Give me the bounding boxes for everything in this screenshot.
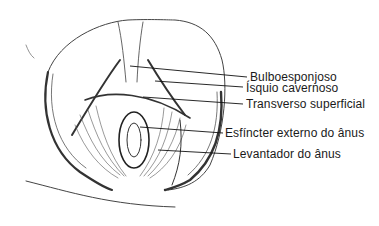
right-thigh-band-inner xyxy=(188,92,217,175)
external-anal-sphincter xyxy=(119,112,149,168)
leader-bulboesponjoso xyxy=(130,66,247,77)
left-thigh-band xyxy=(45,72,112,190)
label-levantador: Levantador do ânus xyxy=(233,147,341,161)
perineum-illustration xyxy=(26,20,225,207)
label-isquio-cavernoso: Ísquio cavernoso xyxy=(246,81,338,95)
leader-levantador xyxy=(158,150,231,154)
anal-canal xyxy=(127,123,141,157)
right-thigh-band xyxy=(165,92,222,190)
leader-lines xyxy=(130,66,247,154)
leader-esfincter xyxy=(140,127,223,133)
leader-transverso xyxy=(143,97,243,104)
central-raphe-left xyxy=(118,22,126,82)
label-transverso-superficial: Transverso superficial xyxy=(246,97,365,111)
ischiocavernosus-left xyxy=(72,60,120,135)
central-raphe-right xyxy=(137,22,143,82)
sketch-mark xyxy=(26,45,34,58)
anatomy-diagram xyxy=(0,0,379,226)
label-esfincter-externo: Esfíncter externo do ânus xyxy=(225,126,364,140)
transverse-superficial xyxy=(85,94,190,118)
leader-isquio-cavernoso xyxy=(155,81,243,87)
